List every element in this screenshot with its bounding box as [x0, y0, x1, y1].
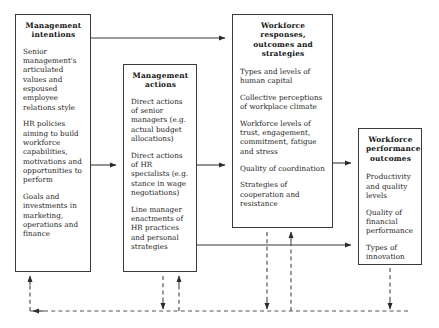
box-item: Types of innovation — [366, 243, 415, 262]
box-workforce-performance: Workforce performance outcomes Productiv… — [358, 128, 422, 265]
box-item: Direct actions of senior managers (e.g. … — [131, 97, 190, 143]
diagram-canvas: Management intentions Senior management'… — [0, 0, 439, 328]
box-management-intentions: Management intentions Senior management'… — [15, 14, 91, 272]
box-item: Collective perceptions of workplace clim… — [240, 93, 326, 112]
box-title-management-intentions: Management intentions — [23, 21, 84, 40]
box-item: Senior management's articulated values a… — [23, 47, 84, 112]
box-management-actions: Management actions Direct actions of sen… — [123, 64, 197, 272]
box-title-workforce-responses: Workforce responses, outcomes and strate… — [240, 21, 326, 59]
box-item: HR policies aiming to build workforce ca… — [23, 119, 84, 184]
box-item: Strategies of cooperation and resistance — [240, 180, 326, 208]
box-workforce-responses: Workforce responses, outcomes and strate… — [232, 14, 333, 228]
box-title-workforce-performance: Workforce performance outcomes — [366, 135, 415, 163]
box-item: Line manager enactments of HR practices … — [131, 205, 190, 251]
box-item: Quality of financial performance — [366, 208, 415, 236]
box-item: Goals and investments in marketing, oper… — [23, 192, 84, 238]
box-item: Quality of coordination — [240, 164, 326, 173]
box-item: Direct actions of HR specialists (e.g. s… — [131, 151, 190, 197]
box-item: Types and levels of human capital — [240, 67, 326, 86]
box-title-management-actions: Management actions — [131, 71, 190, 90]
box-item: Workforce levels of trust, engagement, c… — [240, 119, 326, 156]
box-item: Productivity and quality levels — [366, 172, 415, 200]
